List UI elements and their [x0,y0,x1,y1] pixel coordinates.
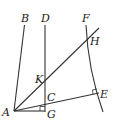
label-k: K [34,73,44,86]
line-ae [14,93,99,111]
line-ah [14,28,99,111]
label-e: E [99,88,108,101]
label-b: B [20,12,29,25]
geometry-diagram: B D F H K C E A G [0,0,115,125]
label-a: A [1,106,10,119]
label-g: G [47,108,56,121]
label-c: C [47,91,56,104]
label-h: H [89,35,100,48]
line-ab [14,25,25,111]
label-f: F [81,12,90,25]
label-d: D [40,12,50,25]
diagram-svg: B D F H K C E A G [0,0,115,125]
right-angle-g-icon [40,107,45,112]
